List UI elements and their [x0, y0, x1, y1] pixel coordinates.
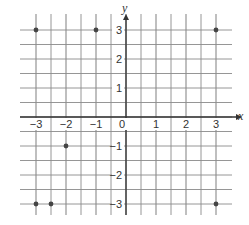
- y-tick-label: −1: [109, 140, 122, 152]
- y-tick-label: −2: [109, 169, 122, 181]
- x-tick-label: 2: [183, 118, 189, 130]
- y-tick-label: 1: [116, 82, 122, 94]
- x-tick-label: −2: [60, 118, 73, 130]
- data-point: [34, 28, 39, 33]
- data-point: [64, 144, 69, 149]
- y-tick-label: 3: [116, 24, 122, 36]
- x-tick-label: −1: [90, 118, 103, 130]
- data-point: [94, 28, 99, 33]
- y-tick-label: 2: [116, 53, 122, 65]
- x-tick-label: −3: [30, 118, 43, 130]
- x-tick-label: 1: [153, 118, 159, 130]
- data-point: [49, 202, 54, 207]
- y-axis-label: y: [121, 1, 128, 15]
- x-tick-label: 3: [213, 118, 219, 130]
- data-point: [214, 202, 219, 207]
- data-point: [34, 202, 39, 207]
- y-tick-label: −3: [109, 198, 122, 210]
- data-point: [214, 28, 219, 33]
- coordinate-grid-chart: −3−2−10123−3−2−1123 x y: [0, 0, 249, 225]
- x-tick-label: 0: [119, 118, 125, 130]
- x-axis-label: x: [237, 109, 244, 123]
